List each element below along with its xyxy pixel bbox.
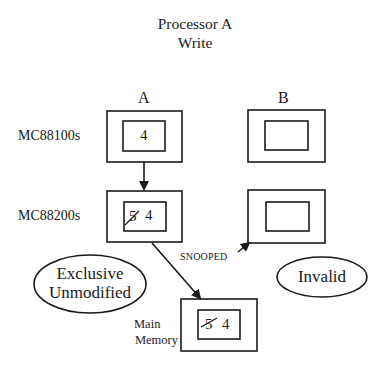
state-b-label: Invalid (277, 267, 367, 286)
a-mc88200-new-value: 4 (145, 207, 153, 224)
snooped-label: SNOOPED (180, 251, 228, 262)
diagram-title-line2: Write (0, 33, 390, 52)
a-mc88200-old-value: 5 (129, 208, 137, 225)
row-label-mc88200s: MC88200s (18, 208, 80, 224)
main-memory-new-value: 4 (222, 316, 230, 333)
a-mc88100-value: 4 (140, 127, 148, 144)
state-a-line2: Unmodified (34, 283, 146, 302)
b-mc88100-outer-box (248, 110, 325, 162)
row-label-mc88100s: MC88100s (18, 128, 80, 144)
main-memory-old-value: 5 (205, 316, 213, 333)
main-memory-label-main: Main (134, 316, 178, 332)
column-label-b: B (278, 89, 289, 107)
diagram-title-line1: Processor A (0, 14, 390, 33)
diagram-canvas (0, 0, 390, 369)
column-label-a: A (138, 89, 150, 107)
b-mc88200-outer-box (248, 190, 325, 243)
main-memory-outer-box (181, 299, 257, 351)
main-memory-label-line1: Main (120, 316, 178, 332)
main-memory-label-line2: Memory (120, 332, 178, 348)
b-mc88100-cache-box (265, 121, 308, 150)
state-a-line1: Exclusive (34, 264, 146, 283)
arrow-snoop-to-b (238, 243, 249, 252)
b-mc88200-cache-box (266, 202, 309, 231)
